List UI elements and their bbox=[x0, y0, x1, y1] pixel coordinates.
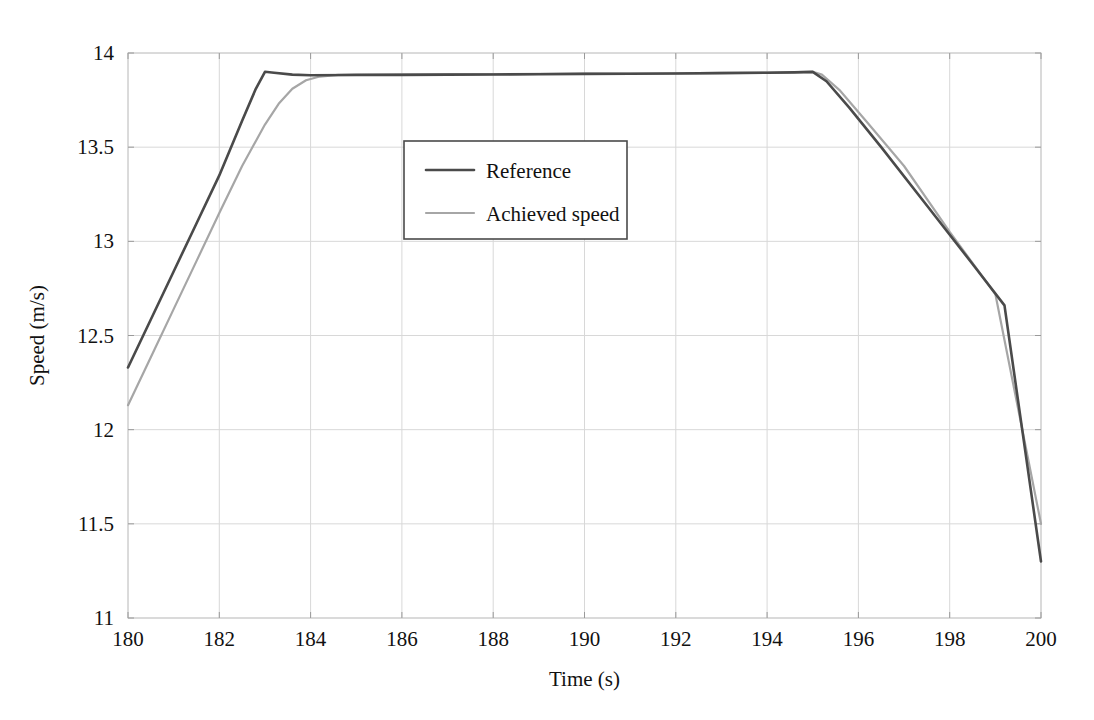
x-axis-title: Time (s) bbox=[549, 667, 620, 691]
x-tick-label: 188 bbox=[477, 627, 509, 651]
x-tick-label: 182 bbox=[204, 627, 236, 651]
y-tick-label: 13.5 bbox=[77, 135, 114, 159]
y-axis-title: Speed (m/s) bbox=[25, 285, 49, 386]
y-tick-label: 14 bbox=[93, 41, 115, 65]
x-tick-label: 190 bbox=[569, 627, 601, 651]
x-tick-label: 180 bbox=[112, 627, 144, 651]
y-tick-label: 13 bbox=[93, 229, 114, 253]
x-tick-label: 194 bbox=[751, 627, 783, 651]
y-tick-label: 12 bbox=[93, 418, 114, 442]
legend-label-achieved-speed: Achieved speed bbox=[486, 202, 620, 226]
chart-figure: 1801821841861881901921941961982001111.51… bbox=[0, 0, 1094, 720]
y-tick-label: 12.5 bbox=[77, 324, 114, 348]
plot-background bbox=[0, 0, 1094, 720]
legend-label-reference: Reference bbox=[486, 159, 571, 183]
line-chart: 1801821841861881901921941961982001111.51… bbox=[0, 0, 1094, 720]
x-tick-label: 186 bbox=[386, 627, 418, 651]
x-tick-label: 198 bbox=[934, 627, 966, 651]
x-tick-label: 196 bbox=[843, 627, 875, 651]
y-tick-label: 11.5 bbox=[78, 512, 114, 536]
x-tick-label: 192 bbox=[660, 627, 692, 651]
x-tick-label: 200 bbox=[1025, 627, 1057, 651]
x-tick-label: 184 bbox=[295, 627, 327, 651]
chart-legend: ReferenceAchieved speed bbox=[404, 141, 627, 239]
y-tick-label: 11 bbox=[94, 606, 114, 630]
